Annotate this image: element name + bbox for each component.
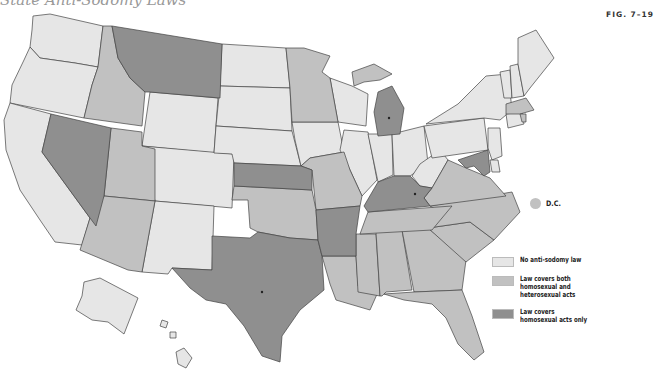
legend-item-none: No anti-sodomy law: [492, 256, 660, 267]
map-legend: No anti-sodomy law Law covers both homos…: [492, 256, 660, 332]
state-mi: [374, 86, 404, 136]
state-wy: [142, 92, 218, 153]
state-fl: [384, 290, 484, 360]
capital-dot-ky: [414, 193, 416, 195]
state-ar: [316, 206, 360, 256]
state-ak: [76, 278, 138, 334]
state-hi-3: [170, 332, 176, 338]
state-pa: [424, 118, 488, 158]
legend-label: No anti-sodomy law: [520, 256, 581, 264]
state-mi-up: [352, 64, 392, 86]
dc-label: D.C.: [546, 199, 561, 208]
state-mn: [286, 48, 338, 122]
state-ny: [426, 74, 512, 124]
state-me: [518, 30, 554, 96]
swatch-homosexual-only-icon: [492, 309, 514, 319]
state-hi: [176, 348, 192, 368]
state-nj: [488, 128, 502, 160]
dc-marker: D.C.: [530, 198, 563, 209]
state-ok: [232, 186, 318, 240]
legend-item-both: Law covers both homosexual and heterosex…: [492, 275, 660, 300]
legend-item-homosexual-only: Law covers homosexual acts only: [492, 308, 660, 324]
legend-label: Law covers both homosexual and heterosex…: [520, 275, 575, 300]
state-nd: [220, 44, 290, 88]
capital-dot-tx: [261, 291, 263, 293]
swatch-none-icon: [492, 257, 514, 267]
legend-label: Law covers homosexual acts only: [520, 308, 587, 324]
state-sd: [216, 86, 292, 131]
swatch-both-icon: [492, 276, 514, 286]
capital-dot-mi: [388, 117, 390, 119]
state-de: [490, 160, 500, 172]
state-hi-2: [160, 320, 168, 328]
state-ks: [234, 163, 312, 190]
dc-dot-icon: [530, 198, 541, 209]
state-co: [142, 146, 234, 208]
